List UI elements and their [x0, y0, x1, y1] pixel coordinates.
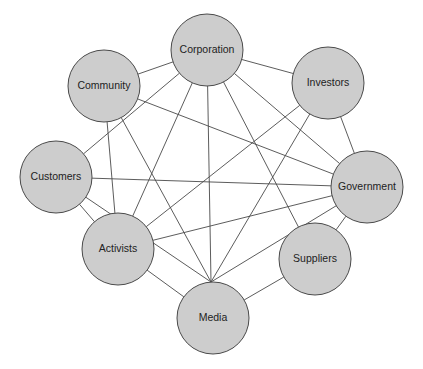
node-label-activists: Activists	[99, 242, 138, 254]
node-label-customers: Customers	[31, 170, 82, 182]
node-label-media: Media	[199, 311, 228, 323]
edge-suppliers-media	[244, 277, 284, 300]
node-label-government: Government	[338, 180, 396, 192]
node-government: Government	[331, 151, 403, 223]
node-community: Community	[68, 50, 140, 122]
node-investors: Investors	[292, 47, 364, 119]
node-label-corporation: Corporation	[180, 43, 235, 55]
node-customers: Customers	[20, 141, 92, 213]
nodes-layer: CorporationCommunityInvestorsCustomersGo…	[20, 14, 403, 354]
edge-corporation-media	[208, 86, 211, 282]
edge-customers-government	[92, 178, 331, 186]
edge-corporation-activists	[133, 83, 193, 216]
edge-investors-activists	[146, 105, 300, 226]
node-label-suppliers: Suppliers	[293, 252, 337, 264]
edge-corporation-community	[138, 62, 173, 74]
node-suppliers: Suppliers	[279, 223, 351, 295]
node-label-investors: Investors	[307, 76, 350, 88]
edge-activists-media	[147, 270, 184, 297]
edge-corporation-suppliers	[224, 82, 299, 227]
edge-customers-activists	[79, 204, 94, 221]
node-activists: Activists	[82, 213, 154, 285]
edge-government-suppliers	[336, 216, 346, 230]
node-corporation: Corporation	[171, 14, 243, 86]
edge-investors-government	[341, 117, 355, 154]
edge-community-activists	[107, 122, 115, 213]
edge-corporation-investors	[242, 59, 294, 73]
node-media: Media	[177, 282, 249, 354]
stakeholder-network-diagram: CorporationCommunityInvestorsCustomersGo…	[0, 0, 423, 369]
node-label-community: Community	[77, 79, 131, 91]
